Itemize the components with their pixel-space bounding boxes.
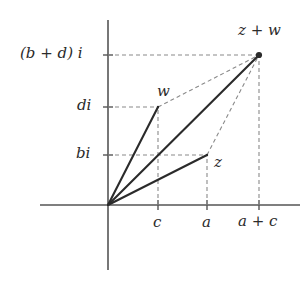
y-axis-label-bi: bi bbox=[76, 146, 90, 161]
y-axis-label-di: di bbox=[77, 98, 91, 113]
point-label-w: w bbox=[157, 84, 170, 99]
point-label-z-plus-w: z + w bbox=[238, 23, 281, 38]
point-marker-z bbox=[206, 154, 208, 156]
y-axis-label-b-plus-d-i: (b + d) i bbox=[20, 46, 83, 61]
x-axis-label-c: c bbox=[153, 215, 161, 230]
edge-w-to-z-plus-w bbox=[158, 55, 259, 107]
vector-to-z-plus-w bbox=[108, 55, 259, 205]
edge-z-to-z-plus-w bbox=[207, 55, 259, 155]
vector-to-w bbox=[108, 107, 158, 205]
point-marker-w bbox=[157, 106, 159, 108]
vectors-group bbox=[108, 55, 259, 205]
x-axis-label-a-plus-c: a + c bbox=[238, 214, 277, 229]
point-label-z: z bbox=[214, 155, 222, 170]
point-marker-z-plus-w bbox=[256, 52, 262, 58]
x-axis-label-a: a bbox=[202, 215, 211, 230]
complex-plane-figure: (b + d) i di bi c a a + c w z z + w bbox=[0, 0, 308, 308]
